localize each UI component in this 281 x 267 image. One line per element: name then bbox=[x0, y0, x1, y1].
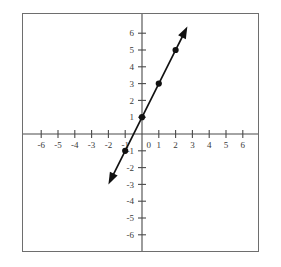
data-point bbox=[156, 81, 162, 87]
x-tick-label: -2 bbox=[105, 140, 113, 150]
y-tick-label: 1 bbox=[130, 112, 135, 122]
x-tick-label: 0 bbox=[147, 140, 152, 150]
x-tick-label: 1 bbox=[157, 140, 162, 150]
x-tick-label: -5 bbox=[54, 140, 62, 150]
y-tick-label: -4 bbox=[127, 196, 135, 206]
x-tick-label: 6 bbox=[241, 140, 246, 150]
x-tick-label: 3 bbox=[190, 140, 195, 150]
x-tick-label: -3 bbox=[88, 140, 96, 150]
y-tick-label: 6 bbox=[130, 28, 135, 38]
y-tick-label: -3 bbox=[127, 180, 135, 190]
line-arrowhead-upper bbox=[178, 26, 187, 39]
coordinate-plane-graph: -6-5-4-3-2-10123456654321-1-2-3-4-5-6 bbox=[0, 0, 281, 267]
y-tick-label: 2 bbox=[130, 96, 135, 106]
y-tick-label: -5 bbox=[127, 213, 135, 223]
data-point bbox=[139, 114, 145, 120]
x-tick-label: -4 bbox=[71, 140, 79, 150]
function-line bbox=[111, 32, 185, 180]
y-tick-label: 3 bbox=[130, 79, 135, 89]
x-tick-label: 4 bbox=[207, 140, 212, 150]
y-tick-label: 4 bbox=[130, 62, 135, 72]
y-tick-label: -6 bbox=[127, 230, 135, 240]
line-arrowhead-lower bbox=[108, 172, 117, 185]
x-tick-label: 2 bbox=[173, 140, 178, 150]
data-point bbox=[122, 148, 128, 154]
x-tick-label: -6 bbox=[37, 140, 45, 150]
y-tick-label: -2 bbox=[127, 163, 135, 173]
data-point bbox=[173, 47, 179, 53]
y-tick-label: 5 bbox=[130, 45, 135, 55]
graph-canvas: -6-5-4-3-2-10123456654321-1-2-3-4-5-6 bbox=[0, 0, 281, 267]
x-tick-label: 5 bbox=[224, 140, 229, 150]
